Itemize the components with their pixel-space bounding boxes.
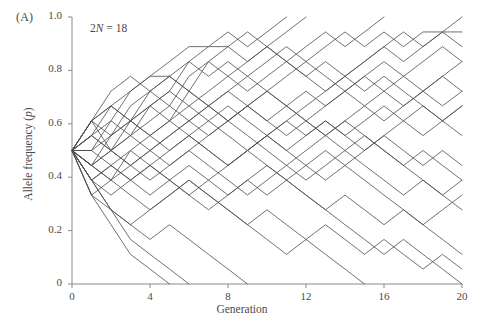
trajectory-line	[72, 32, 462, 166]
y-axis-label: Allele frequency (p)	[22, 64, 34, 244]
x-axis-label: Generation	[0, 303, 484, 315]
trajectory-line	[72, 151, 189, 285]
x-axis-tick-label: 20	[442, 290, 482, 302]
x-axis-tick-label: 12	[286, 290, 326, 302]
y-axis-label-suffix: )	[22, 107, 34, 111]
y-axis-tick-label: 0.4	[22, 169, 62, 181]
population-size-annotation: 2N = 18	[90, 22, 127, 34]
y-axis-tick-label: 0.2	[22, 223, 62, 235]
x-axis-tick-label: 0	[52, 290, 92, 302]
trajectory-line	[72, 17, 306, 151]
trajectory-line	[72, 106, 462, 151]
trajectory-line	[72, 17, 462, 151]
trajectory-line	[72, 151, 462, 225]
genetic-drift-figure: (A) 2N = 18 Allele frequency (p) Generat…	[0, 0, 484, 327]
y-axis-label-prefix: Allele frequency (	[22, 117, 34, 201]
y-axis-tick-label: 0	[22, 276, 62, 288]
trajectory-line	[72, 76, 462, 150]
plot-canvas	[0, 0, 484, 327]
y-axis-tick-label: 1.0	[22, 9, 62, 21]
x-axis-tick-label: 4	[130, 290, 170, 302]
y-axis-tick-label: 0.8	[22, 62, 62, 74]
trajectory-line	[72, 151, 462, 285]
x-axis-tick-label: 8	[208, 290, 248, 302]
annotation-suffix: = 18	[103, 22, 127, 34]
trajectory-line	[72, 151, 462, 196]
y-axis-tick-label: 0.6	[22, 116, 62, 128]
x-axis-tick-label: 16	[364, 290, 404, 302]
trajectory-line	[72, 47, 462, 151]
trajectory-line	[72, 17, 384, 151]
